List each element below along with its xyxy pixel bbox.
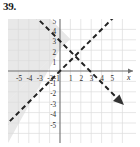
y-tick-label: 2 xyxy=(53,49,57,57)
x-tick-label: -4 xyxy=(26,75,32,83)
graph-svg: x y -5 -4 -3 -2 -1 1 2 3 4 5 5 4 3 2 1 -… xyxy=(8,19,136,143)
x-tick-label: 4 xyxy=(100,75,104,83)
x-tick-label: 3 xyxy=(90,75,94,83)
y-tick-label: 1 xyxy=(53,59,57,67)
x-tick-label: -3 xyxy=(37,75,43,83)
x-tick-label: 1 xyxy=(69,75,73,83)
y-tick-label: 5 xyxy=(53,19,57,26)
figure-container: 39. xyxy=(0,0,140,147)
x-tick-label: 2 xyxy=(79,75,83,83)
y-tick-label: -5 xyxy=(50,122,56,130)
x-axis-label: x xyxy=(126,73,131,82)
coordinate-plane: x y -5 -4 -3 -2 -1 1 2 3 4 5 5 4 3 2 1 -… xyxy=(8,19,136,143)
y-tick-label: 4 xyxy=(53,28,57,36)
y-tick-label: -4 xyxy=(50,111,56,119)
y-tick-label: -1 xyxy=(50,80,56,88)
x-tick-label: -5 xyxy=(16,75,22,83)
problem-number-label: 39. xyxy=(3,1,16,12)
y-tick-label: 3 xyxy=(53,38,57,46)
y-tick-label: -2 xyxy=(50,90,56,98)
x-tick-label: 5 xyxy=(111,75,115,83)
y-tick-label: -3 xyxy=(50,101,56,109)
